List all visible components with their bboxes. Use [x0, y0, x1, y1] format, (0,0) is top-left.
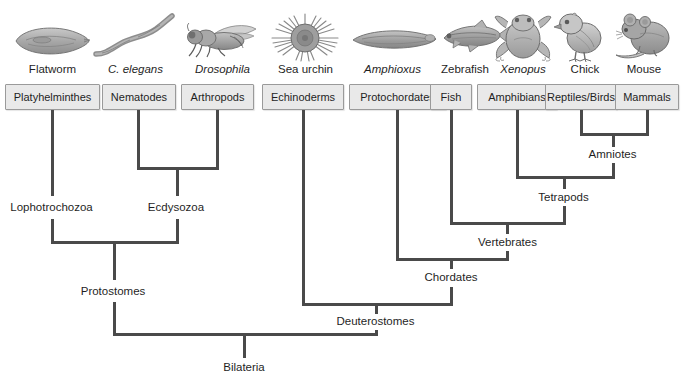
mouse-illustration	[614, 12, 678, 62]
chick-illustration	[552, 10, 610, 62]
branch-ecdysozoa-stem-upper	[176, 167, 179, 196]
branch-arthropods-stem	[216, 110, 219, 170]
branch-protostomes-stem-upper	[113, 241, 116, 280]
clade-label-vertebrates: Vertebrates	[465, 236, 550, 248]
branch-platyhelminthes-stem	[51, 110, 54, 196]
branch-vertebrates-stem-upper	[506, 222, 509, 234]
flatworm-illustration	[12, 22, 92, 56]
branch-echinoderms-stem	[302, 110, 305, 306]
taxon-box-platyhelminthes[interactable]: Platyhelminthes	[5, 84, 100, 110]
clade-label-deuterostomes: Deuterostomes	[323, 315, 428, 327]
phylogenetic-tree-diagram: Flatworm C. elegans Drosophila Sea urchi…	[0, 0, 683, 388]
branch-bilateria-root-stem	[243, 333, 246, 358]
branch-protostomes-stem-lower	[113, 302, 116, 334]
taxon-box-mammals[interactable]: Mammals	[615, 84, 679, 110]
branch-lophotrochozoa-stem	[51, 219, 54, 242]
clade-label-chordates: Chordates	[411, 271, 491, 283]
clade-label-lophotrochozoa: Lophotrochozoa	[0, 201, 103, 213]
branch-amphibians-stem	[516, 110, 519, 179]
branch-nematodes-stem	[137, 110, 140, 170]
branch-amniotes-stem-upper	[612, 133, 615, 147]
fruitfly-illustration	[184, 18, 262, 58]
clade-label-bilateria: Bilateria	[208, 361, 280, 373]
frog-illustration	[492, 12, 554, 62]
clade-label-amniotes: Amniotes	[575, 148, 650, 160]
branch-ecdysozoa-stem-lower	[176, 219, 179, 242]
branch-deuterostomes-stem-upper	[375, 303, 378, 314]
sea-urchin-illustration	[268, 12, 342, 62]
clade-label-protostomes: Protostomes	[67, 285, 159, 297]
branch-fish-stem	[450, 110, 453, 225]
branch-chordates-stem-upper	[450, 258, 453, 269]
taxon-box-fish[interactable]: Fish	[430, 84, 472, 110]
taxon-box-nematodes[interactable]: Nematodes	[102, 84, 176, 110]
taxon-box-reptiles-birds[interactable]: Reptiles/Birds	[545, 84, 617, 110]
common-name-mouse: Mouse	[605, 63, 683, 75]
lancelet-illustration	[350, 26, 438, 52]
nematode-illustration	[92, 14, 176, 58]
clade-label-ecdysozoa: Ecdysozoa	[132, 201, 220, 213]
taxon-box-arthropods[interactable]: Arthropods	[181, 84, 254, 110]
branch-tetrapods-stem-upper	[563, 176, 566, 189]
clade-label-tetrapods: Tetrapods	[526, 191, 601, 203]
taxon-box-echinoderms[interactable]: Echinoderms	[262, 84, 344, 110]
branch-protochordates-stem	[396, 110, 399, 261]
